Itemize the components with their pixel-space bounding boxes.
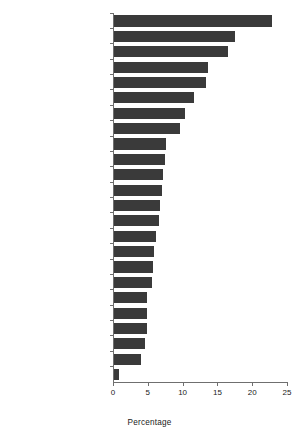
bar-row: Peru (2000)	[113, 167, 287, 183]
bar-row: Honduras (2001)	[113, 44, 287, 60]
bar	[114, 246, 154, 257]
bar	[114, 215, 159, 226]
y-axis-tick	[110, 166, 113, 167]
y-axis-tick	[110, 136, 113, 137]
bar-row: Nicaragua (2001)	[113, 121, 287, 137]
y-axis-tick	[110, 212, 113, 213]
bar	[114, 292, 147, 303]
y-axis-tick	[110, 105, 113, 106]
bar-row: Uruguay (1996)	[113, 305, 287, 321]
y-axis-tick	[110, 74, 113, 75]
plot-area: Guatemala (2002)Haiti (2000)Honduras (20…	[113, 13, 287, 382]
x-axis-tick-label: 0	[98, 388, 128, 397]
y-axis-tick	[110, 351, 113, 352]
bar	[114, 62, 208, 73]
y-axis-tick	[110, 151, 113, 152]
bar	[114, 323, 147, 334]
x-axis-tick	[183, 382, 184, 386]
bar	[114, 77, 206, 88]
y-axis-tick	[110, 243, 113, 244]
bar	[114, 31, 235, 42]
bar	[114, 354, 141, 365]
bar	[114, 369, 119, 380]
bar-row: Ecuador (2000)	[113, 90, 287, 106]
bar	[114, 169, 163, 180]
bar-row: Costa Rica (1996)	[113, 274, 287, 290]
y-axis-tick	[110, 305, 113, 306]
bar	[114, 261, 153, 272]
bar-row: Venezuela (2000)	[113, 321, 287, 337]
y-axis-tick	[110, 274, 113, 275]
x-axis-tick	[252, 382, 253, 386]
x-axis-title: Percentage	[0, 418, 299, 427]
bar	[114, 277, 152, 288]
bar-row: Cuba (2000)	[113, 336, 287, 352]
bar-row: Bolivia (2003)	[113, 151, 287, 167]
y-axis-tick	[110, 13, 113, 14]
y-axis-tick	[110, 320, 113, 321]
x-axis-tick-label: 5	[133, 388, 163, 397]
y-axis-tick	[110, 43, 113, 44]
bar-row: Jamaica (2002)	[113, 351, 287, 367]
bar	[114, 200, 160, 211]
bar-row: Mexico (1999)	[113, 136, 287, 152]
bar-row: Colombia (2000)	[113, 198, 287, 214]
bar-row: Panama (1997)	[113, 182, 287, 198]
x-axis-tick-label: 25	[272, 388, 299, 397]
bar-row: Argentina (1996)	[113, 244, 287, 260]
y-axis-tick	[110, 89, 113, 90]
y-axis-tick	[110, 59, 113, 60]
x-axis-tick	[148, 382, 149, 386]
y-axis-tick	[110, 289, 113, 290]
bar	[114, 108, 185, 119]
bar	[114, 46, 228, 57]
x-axis-tick-label: 15	[202, 388, 232, 397]
bar	[114, 185, 162, 196]
bar-row: Brazil (1996)	[113, 228, 287, 244]
bar-chart: Guatemala (2002)Haiti (2000)Honduras (20…	[0, 0, 299, 437]
bar	[114, 15, 272, 26]
bar-row: Haiti (2000)	[113, 28, 287, 44]
bar	[114, 138, 166, 149]
bar-row: Suriname (2000)	[113, 75, 287, 91]
bar	[114, 231, 156, 242]
bar-row: Guatemala (2002)	[113, 13, 287, 29]
bar	[114, 154, 165, 165]
bar-row: Guyana (2000)	[113, 59, 287, 75]
x-axis-tick	[287, 382, 288, 386]
bar	[114, 308, 147, 319]
bar-row: Chile (2003)	[113, 367, 287, 383]
y-axis-tick	[110, 28, 113, 29]
x-axis-tick-label: 20	[237, 388, 267, 397]
y-axis-tick	[110, 197, 113, 198]
bar-row: Paraguay (2001)	[113, 290, 287, 306]
y-axis-tick	[110, 259, 113, 260]
y-axis-tick	[110, 120, 113, 121]
bar	[114, 338, 145, 349]
x-axis-tick-label: 10	[168, 388, 198, 397]
bar-row: Belize (1992)	[113, 213, 287, 229]
x-axis-tick	[113, 382, 114, 386]
y-axis-tick	[110, 182, 113, 183]
y-axis-tick	[110, 366, 113, 367]
bar-row: Dominican Republic (2002)	[113, 259, 287, 275]
bar	[114, 123, 180, 134]
bar-row: El Salvador (2003)	[113, 105, 287, 121]
x-axis-tick	[217, 382, 218, 386]
y-axis-tick	[110, 335, 113, 336]
y-axis-tick	[110, 228, 113, 229]
bar	[114, 92, 194, 103]
